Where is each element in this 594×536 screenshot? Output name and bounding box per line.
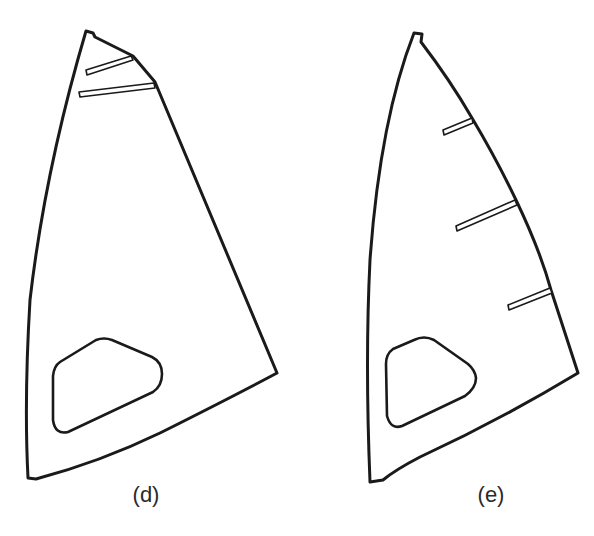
sail-d [26,31,277,479]
sail-e-batten-3 [508,288,552,310]
sail-e-window [386,338,476,427]
sail-d-window [53,339,162,433]
sail-diagram-figure: (d) (e) [0,0,594,536]
sail-d-outline [26,31,277,479]
sail-e [368,33,579,482]
panel-label-e: (e) [478,484,505,506]
sail-e-outline [368,33,579,482]
panel-label-d: (d) [133,484,160,506]
sail-e-batten-2 [456,200,517,231]
sail-e-batten-1 [443,118,473,135]
sail-drawings [0,0,594,536]
sail-d-batten-2 [79,83,155,97]
sail-d-batten-1 [86,56,133,75]
